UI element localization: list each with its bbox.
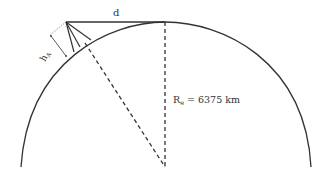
radius-label: Re= 6375 km [173,94,240,107]
sight-line-2 [66,22,80,47]
earth-curvature-diagram: d hA Re= 6375 km [0,0,327,175]
height-dimension-top-tick [50,22,66,35]
radius-label-value: = 6375 km [187,94,240,105]
height-label: hA [38,49,53,64]
height-dimension-dot-bottom [65,55,67,57]
radius-diagonal-dashed [85,43,165,167]
earth-surface-arc [21,22,311,167]
height-dimension-dot-top [50,35,52,37]
radius-label-sub: e [180,99,184,107]
height-dimension-line [51,36,66,56]
distance-label: d [113,7,120,18]
